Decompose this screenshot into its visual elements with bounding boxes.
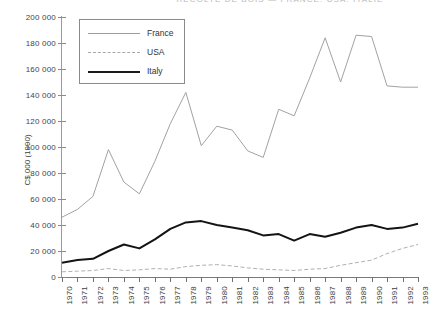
y-tick-label: 140 000 [26,91,56,100]
chart-legend: France USA Italy [79,19,185,84]
legend-item-usa: USA [80,43,184,60]
y-tick-label: 200 000 [26,13,56,22]
legend-swatch-usa [88,47,140,57]
x-tick [201,277,202,282]
x-tick [93,277,94,282]
y-tick-label: 120 000 [26,117,56,126]
x-tick-label: 1971 [80,286,89,305]
x-tick [139,277,140,282]
legend-item-italy: Italy [80,62,184,79]
x-tick [372,277,373,282]
x-tick [341,277,342,282]
legend-label-france: France [147,28,173,38]
x-tick-label: 1987 [328,286,337,305]
legend-item-france: France [80,24,184,41]
x-tick-label: 1986 [313,286,322,305]
x-tick [248,277,249,282]
x-axis-line [61,277,419,278]
x-tick [108,277,109,282]
x-tick-label: 1981 [235,286,244,305]
x-tick-label: 1974 [127,286,136,305]
x-tick [403,277,404,282]
x-tick-label: 1978 [189,286,198,305]
y-tick-label: 40 000 [30,221,56,230]
y-tick-label: 100 000 [26,143,56,152]
x-tick [387,277,388,282]
x-tick [232,277,233,282]
x-tick-label: 1989 [359,286,368,305]
x-tick [62,277,63,282]
x-tick-label: 1984 [282,286,291,305]
x-tick [310,277,311,282]
x-tick-label: 1972 [96,286,105,305]
x-tick-label: 1976 [158,286,167,305]
x-tick-label: 1979 [204,286,213,305]
x-tick-label: 1992 [406,286,415,305]
y-tick-label: 180 000 [26,39,56,48]
series-line-italy [62,221,418,263]
x-tick-label: 1982 [251,286,260,305]
legend-swatch-france [88,28,140,38]
line-chart: RÉCOLTE DE BOIS — FRANCE, USA, ITALIE C$… [0,0,433,319]
x-tick [325,277,326,282]
legend-swatch-italy [88,66,140,76]
y-tick-label: 160 000 [26,65,56,74]
x-tick-label: 1980 [220,286,229,305]
y-tick-label: 60 000 [30,195,56,204]
x-tick [124,277,125,282]
x-tick [263,277,264,282]
x-tick-label: 1985 [297,286,306,305]
x-tick [155,277,156,282]
x-tick-label: 1973 [111,286,120,305]
legend-label-usa: USA [147,47,164,57]
x-tick-label: 1988 [344,286,353,305]
legend-label-italy: Italy [147,66,163,76]
x-tick [217,277,218,282]
y-tick-label: 0 [51,273,56,282]
x-tick [356,277,357,282]
x-tick [77,277,78,282]
x-tick [418,277,419,282]
chart-title: RÉCOLTE DE BOIS — FRANCE, USA, ITALIE [150,0,410,2]
x-tick-label: 1983 [266,286,275,305]
x-tick-label: 1993 [421,286,430,305]
x-tick-label: 1990 [375,286,384,305]
y-tick-label: 20 000 [30,247,56,256]
x-tick-label: 1977 [173,286,182,305]
x-tick [186,277,187,282]
x-tick-label: 1991 [390,286,399,305]
x-tick-label: 1970 [65,286,74,305]
y-tick-label: 80 000 [30,169,56,178]
x-tick-label: 1975 [142,286,151,305]
x-tick [279,277,280,282]
x-tick [170,277,171,282]
x-tick [294,277,295,282]
